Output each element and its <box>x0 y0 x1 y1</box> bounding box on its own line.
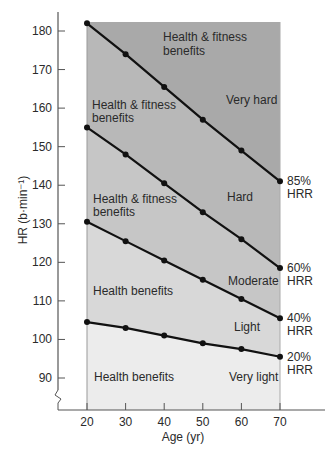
data-point <box>200 277 206 283</box>
x-tick-label: 50 <box>196 415 210 429</box>
series-label-pct: 60% <box>287 261 311 275</box>
data-point <box>200 340 206 346</box>
y-tick-label: 150 <box>32 140 52 154</box>
x-tick-label: 30 <box>119 415 133 429</box>
data-point <box>84 319 90 325</box>
data-point <box>123 325 129 331</box>
data-point <box>200 117 206 123</box>
benefit-label: Health benefits <box>94 370 174 384</box>
x-tick-label: 20 <box>80 415 94 429</box>
data-point <box>123 238 129 244</box>
data-point <box>277 178 283 184</box>
benefit-label: Health & fitness <box>93 192 177 206</box>
data-point <box>277 354 283 360</box>
data-point <box>84 20 90 26</box>
y-tick-label: 130 <box>32 217 52 231</box>
data-point <box>84 124 90 130</box>
data-point <box>123 151 129 157</box>
chart-svg: 9010011012013014015016017018020304050607… <box>0 0 336 450</box>
x-tick-label: 70 <box>273 415 287 429</box>
data-point <box>161 257 167 263</box>
data-point <box>123 51 129 57</box>
data-point <box>161 84 167 90</box>
data-point <box>200 209 206 215</box>
series-label-pct: 20% <box>287 350 311 364</box>
y-tick-label: 100 <box>32 332 52 346</box>
series-label-hrr: HRR <box>287 363 313 377</box>
y-tick-label: 110 <box>33 294 52 308</box>
zone-name-label: Moderate <box>228 274 279 288</box>
axis-break-icon <box>55 390 61 410</box>
data-point <box>238 346 244 352</box>
series-label-hrr: HRR <box>287 274 313 288</box>
series-label-hrr: HRR <box>287 187 313 201</box>
zone-name-label: Hard <box>227 190 253 204</box>
data-point <box>238 296 244 302</box>
data-point <box>161 180 167 186</box>
y-tick-label: 140 <box>32 178 52 192</box>
x-axis-title: Age (yr) <box>162 430 205 444</box>
benefit-label: benefits <box>93 205 135 219</box>
data-point <box>238 236 244 242</box>
y-tick-label: 170 <box>32 63 52 77</box>
series-label-hrr: HRR <box>287 324 313 338</box>
heart-rate-zone-chart: 9010011012013014015016017018020304050607… <box>0 0 336 450</box>
zone-name-label: Very hard <box>226 93 277 107</box>
benefit-label: Health benefits <box>93 284 173 298</box>
y-tick-label: 180 <box>32 24 52 38</box>
series-label-pct: 40% <box>287 311 311 325</box>
benefit-label: Health & fitness <box>163 30 247 44</box>
x-tick-label: 60 <box>235 415 249 429</box>
x-tick-label: 40 <box>158 415 172 429</box>
data-point <box>277 265 283 271</box>
benefit-label: Health & fitness <box>92 98 176 112</box>
y-axis-title: HR (b·min⁻¹) <box>16 176 30 245</box>
data-point <box>161 333 167 339</box>
series-label-pct: 85% <box>287 174 311 188</box>
zone-name-label: Very light <box>229 370 279 384</box>
benefit-label: benefits <box>163 44 205 58</box>
y-tick-label: 120 <box>32 255 52 269</box>
y-tick-label: 160 <box>32 101 52 115</box>
zone-name-label: Light <box>234 320 261 334</box>
y-tick-label: 90 <box>39 371 53 385</box>
data-point <box>84 219 90 225</box>
benefit-label: benefits <box>92 111 134 125</box>
data-point <box>277 315 283 321</box>
data-point <box>238 148 244 154</box>
